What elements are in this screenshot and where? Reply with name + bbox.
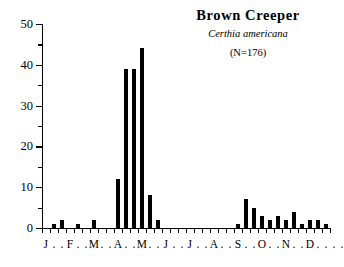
- y-axis-tick-label: 30: [21, 98, 34, 113]
- x-axis-tick: [210, 228, 211, 233]
- y-axis-tick-major: [36, 65, 42, 66]
- plot-area: 01020304050: [42, 24, 330, 228]
- x-axis-sub-label: .: [156, 238, 159, 250]
- y-axis-tick-label: 10: [21, 180, 34, 195]
- bar: [116, 179, 120, 228]
- x-axis-tick: [98, 228, 99, 233]
- y-axis-tick-label: 40: [21, 57, 34, 72]
- x-axis-tick: [50, 228, 51, 233]
- bar: [156, 220, 160, 228]
- bar: [300, 224, 304, 228]
- x-axis-tick: [282, 228, 283, 233]
- x-axis-sub-label: .: [84, 238, 87, 250]
- x-axis-sub-label: .: [148, 238, 151, 250]
- y-axis-tick-major: [36, 187, 42, 188]
- x-axis-month-label: D: [306, 238, 315, 250]
- bar: [308, 220, 312, 228]
- bar: [276, 216, 280, 228]
- x-axis-sub-label: .: [244, 238, 247, 250]
- x-axis-sub-label: .: [332, 238, 335, 250]
- x-axis-sub-label: .: [276, 238, 279, 250]
- x-axis-tick: [266, 228, 267, 233]
- x-axis-sub-label: .: [316, 238, 319, 250]
- bar: [324, 224, 328, 228]
- bar: [316, 220, 320, 228]
- y-axis-tick-minor: [38, 85, 42, 86]
- x-axis-sub-label: .: [292, 238, 295, 250]
- x-axis-month-label: O: [258, 238, 267, 250]
- x-axis-month-label: N: [282, 238, 291, 250]
- x-axis-sub-label: .: [252, 238, 255, 250]
- x-axis-tick: [58, 228, 59, 233]
- x-axis-sub-label: .: [172, 238, 175, 250]
- x-axis-tick: [306, 228, 307, 233]
- x-axis-month-label: J: [188, 238, 193, 250]
- x-axis-tick: [178, 228, 179, 233]
- x-axis-tick: [138, 228, 139, 233]
- x-axis-tick: [218, 228, 219, 233]
- bar: [284, 220, 288, 228]
- x-axis-sub-label: .: [124, 238, 127, 250]
- x-axis-tick: [258, 228, 259, 233]
- x-axis-sub-label: .: [324, 238, 327, 250]
- x-axis-tick: [106, 228, 107, 233]
- bar: [132, 69, 136, 228]
- x-axis-month-label: M: [89, 238, 100, 250]
- x-axis-sub-label: .: [340, 238, 343, 250]
- y-axis-tick-minor: [38, 208, 42, 209]
- bar: [92, 220, 96, 228]
- x-axis-tick: [66, 228, 67, 233]
- bar: [148, 195, 152, 228]
- x-axis-tick: [274, 228, 275, 233]
- x-axis-sub-label: .: [268, 238, 271, 250]
- bar: [76, 224, 80, 228]
- x-axis-sub-label: .: [204, 238, 207, 250]
- x-axis-tick: [154, 228, 155, 233]
- x-axis-tick: [162, 228, 163, 233]
- x-axis-tick: [90, 228, 91, 233]
- x-axis-tick: [114, 228, 115, 233]
- y-axis-tick-label: 50: [21, 17, 34, 32]
- x-axis-month-label: J: [164, 238, 169, 250]
- x-axis-month-label: F: [67, 238, 74, 250]
- x-axis-labels: J..F..M..A..M..J..J..A..S..O..N..D....: [42, 238, 330, 256]
- x-axis-tick: [130, 228, 131, 233]
- y-axis-tick-minor: [38, 126, 42, 127]
- bar: [236, 224, 240, 228]
- bar: [52, 224, 56, 228]
- x-axis-sub-label: .: [180, 238, 183, 250]
- x-axis-tick: [226, 228, 227, 233]
- x-axis-tick: [234, 228, 235, 233]
- x-axis-month-label: A: [210, 238, 219, 250]
- x-axis-tick: [122, 228, 123, 233]
- x-axis-month-label: A: [114, 238, 123, 250]
- bar: [140, 48, 144, 228]
- bar: [268, 220, 272, 228]
- x-axis-tick: [298, 228, 299, 233]
- x-axis-tick: [146, 228, 147, 233]
- x-axis-tick: [242, 228, 243, 233]
- bar: [60, 220, 64, 228]
- x-axis-sub-label: .: [220, 238, 223, 250]
- x-axis-sub-label: .: [76, 238, 79, 250]
- y-axis-tick-label: 0: [27, 221, 33, 236]
- x-axis-tick: [82, 228, 83, 233]
- x-axis-sub-label: .: [108, 238, 111, 250]
- x-axis-month-label: S: [235, 238, 242, 250]
- x-axis-tick: [250, 228, 251, 233]
- x-axis-tick: [42, 228, 43, 233]
- y-axis-tick-major: [36, 24, 42, 25]
- bar: [292, 212, 296, 228]
- x-axis-tick: [330, 228, 331, 233]
- x-axis-tick: [194, 228, 195, 233]
- x-axis-sub-label: .: [132, 238, 135, 250]
- x-axis-sub-label: .: [52, 238, 55, 250]
- y-axis-tick-minor: [38, 44, 42, 45]
- x-axis-month-label: J: [44, 238, 49, 250]
- x-axis-month-label: M: [137, 238, 148, 250]
- x-axis-tick: [74, 228, 75, 233]
- x-axis-tick: [314, 228, 315, 233]
- bar: [124, 69, 128, 228]
- y-axis-tick-label: 20: [21, 139, 34, 154]
